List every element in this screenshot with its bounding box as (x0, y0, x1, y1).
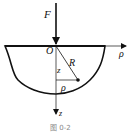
radial-distance-label: ρ (60, 82, 66, 93)
origin-label: O (46, 45, 53, 56)
boussinesq-diagram: F ρ O z R z ρ 图 0-2 (0, 0, 130, 135)
force-label: F (43, 8, 51, 20)
field-point (76, 78, 80, 82)
z-axis-label: z (58, 109, 63, 118)
half-space-boundary (5, 46, 105, 94)
figure-caption: 图 0-2 (50, 124, 71, 132)
depth-label: z (56, 65, 61, 75)
rho-axis-label: ρ (118, 48, 124, 59)
radius-label: R (68, 57, 75, 68)
